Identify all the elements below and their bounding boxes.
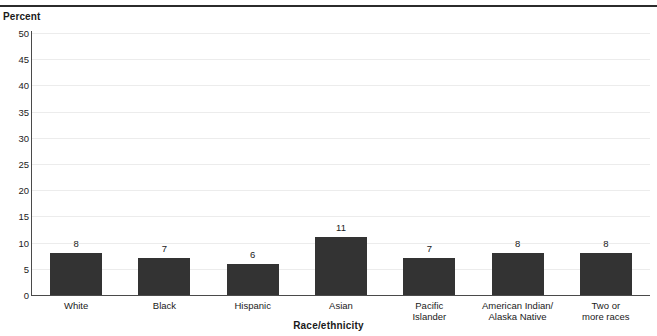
gridline [32,164,650,165]
x-axis-line [32,295,650,296]
gridline [32,59,650,60]
bar[interactable] [50,253,102,295]
bar[interactable] [138,258,190,295]
bar-value-label: 8 [576,239,636,249]
y-axis-tick-label: 25 [3,160,29,169]
x-axis-title: Race/ethnicity [0,320,657,331]
bar-value-label: 6 [223,250,283,260]
y-axis-tick-label: 20 [3,186,29,195]
gridline [32,33,650,34]
bar[interactable] [227,264,279,295]
y-axis-tick-label: 40 [3,81,29,90]
bar-value-label: 11 [311,223,371,233]
gridline [32,138,650,139]
x-axis-category-label: Two ormore races [551,300,657,322]
plot-area: 87611788 [32,33,650,295]
gridline [32,190,650,191]
bar[interactable] [580,253,632,295]
y-axis-tick-label: 15 [3,212,29,221]
bar-value-label: 7 [399,244,459,254]
bar[interactable] [403,258,455,295]
y-axis-tick-labels: 50454035302520151050 [0,0,29,336]
y-axis-tick-label: 10 [3,239,29,248]
y-axis-tick-label: 35 [3,108,29,117]
gridline [32,216,650,217]
y-axis-tick-label: 5 [3,265,29,274]
y-axis-tick-label: 45 [3,55,29,64]
gridline [32,112,650,113]
bar-value-label: 7 [134,244,194,254]
top-divider-rule [0,5,657,7]
bar[interactable] [492,253,544,295]
y-axis-tick-label: 0 [3,291,29,300]
gridline [32,85,650,86]
bar-value-label: 8 [488,239,548,249]
bar[interactable] [315,237,367,295]
y-axis-tick-label: 50 [3,29,29,38]
bar-value-label: 8 [46,239,106,249]
chart-figure: Percent 50454035302520151050 87611788 Wh… [0,0,657,336]
y-axis-tick-label: 30 [3,134,29,143]
